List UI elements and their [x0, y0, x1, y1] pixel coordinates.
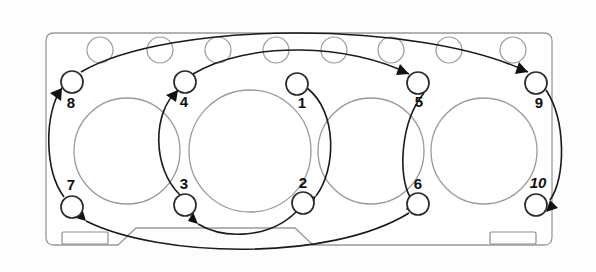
bolt-sequence-diagram: 1 2 3 4 5 6 7 8 9 10	[0, 0, 596, 272]
bolt-hole-2[interactable]	[292, 192, 314, 214]
water-hole-2	[147, 37, 173, 63]
bolt-hole-3[interactable]	[174, 194, 196, 216]
bolt-hole-6[interactable]	[407, 193, 429, 215]
water-hole-5	[321, 37, 347, 63]
bolt-hole-7[interactable]	[61, 196, 83, 218]
bolt-label-3: 3	[180, 175, 188, 192]
oil-slot-left	[62, 232, 108, 244]
bolt-label-8: 8	[67, 94, 75, 111]
bolt-hole-10[interactable]	[525, 194, 547, 216]
water-hole-6	[378, 37, 404, 63]
bolt-label-6: 6	[414, 175, 422, 192]
bolt-label-2: 2	[299, 174, 307, 191]
bolt-label-4: 4	[180, 93, 189, 110]
water-hole-7	[436, 37, 462, 63]
bolt-label-9: 9	[535, 94, 543, 111]
bolt-hole-1[interactable]	[286, 73, 308, 95]
bolt-hole-9[interactable]	[525, 72, 547, 94]
bolt-hole-8[interactable]	[61, 71, 83, 93]
head-gasket-svg: 1 2 3 4 5 6 7 8 9 10	[0, 0, 596, 272]
bolt-hole-5[interactable]	[407, 72, 429, 94]
bolt-label-10: 10	[530, 174, 547, 191]
bolt-label-5: 5	[415, 93, 423, 110]
bolt-label-7: 7	[67, 176, 75, 193]
bolt-label-1: 1	[298, 94, 306, 111]
bolt-hole-4[interactable]	[174, 71, 196, 93]
oil-slot-right	[490, 232, 536, 244]
water-hole-8	[500, 37, 526, 63]
